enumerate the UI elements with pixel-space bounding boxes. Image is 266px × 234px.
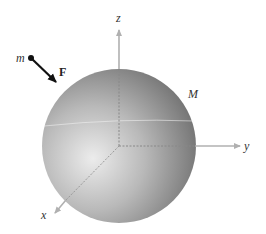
- x-axis: [55, 200, 66, 213]
- particle-m-label: m: [16, 51, 25, 65]
- y-axis-label: y: [243, 139, 250, 153]
- force-F-label: F: [59, 65, 66, 79]
- force-arrow: [31, 58, 56, 82]
- x-axis-label: x: [40, 208, 47, 222]
- mass-M-label: M: [187, 87, 199, 101]
- gravitation-diagram: z y x M m F: [0, 0, 266, 234]
- z-axis-label: z: [115, 11, 121, 25]
